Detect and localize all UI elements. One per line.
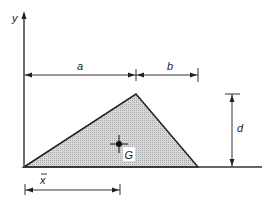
y-axis bbox=[22, 11, 27, 168]
triangle-centroid-diagram: y a b d G x bbox=[0, 0, 274, 205]
y-axis-arrow-icon bbox=[22, 11, 27, 19]
dimension-xbar-label: x bbox=[39, 174, 46, 186]
centroid-label: G bbox=[125, 149, 134, 161]
dimension-d-label: d bbox=[237, 122, 244, 134]
triangle-area bbox=[24, 94, 198, 167]
dimension-a-label: a bbox=[77, 60, 83, 72]
y-axis-label: y bbox=[11, 12, 19, 24]
dimension-b-label: b bbox=[167, 60, 173, 72]
